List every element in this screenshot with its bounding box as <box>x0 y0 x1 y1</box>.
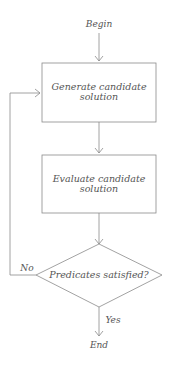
node-text-line: solution <box>42 92 156 102</box>
generate-solution-node: Generate candidate solution <box>42 82 156 102</box>
decision-node: Predicates satisfied? <box>36 270 162 280</box>
no-label: No <box>18 263 36 273</box>
end-label: End <box>84 340 114 350</box>
yes-label: Yes <box>103 315 123 325</box>
evaluate-solution-node: Evaluate candidate solution <box>42 174 156 194</box>
flowchart: Begin Generate candidate solution Evalua… <box>0 0 174 369</box>
node-text-line: solution <box>42 184 156 194</box>
begin-label: Begin <box>79 19 119 29</box>
